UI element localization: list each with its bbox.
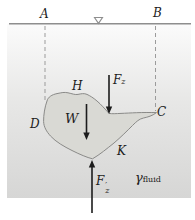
gamma-subscript: fluid (143, 175, 161, 184)
label-gamma-fluid: γfluid (135, 171, 161, 184)
free-surface-icon (95, 18, 103, 24)
label-force-fz-prime: F′z (96, 175, 110, 194)
fz-prime-letter: F (96, 174, 104, 188)
gamma-symbol: γ (135, 170, 143, 185)
fz-subscript: z (121, 77, 125, 86)
label-force-weight: W (65, 112, 78, 125)
label-d: D (30, 118, 40, 130)
label-a: A (40, 8, 49, 20)
label-b: B (153, 7, 162, 19)
label-c: C (157, 106, 166, 118)
force-fz-arrow (106, 75, 112, 114)
label-h: H (72, 80, 82, 92)
fz-prime-marks: ′z (105, 182, 109, 194)
submerged-body (44, 92, 157, 158)
force-fz-prime-arrow (89, 160, 95, 213)
diagram-canvas: A B H D C K Fz W F′z γfluid (0, 0, 195, 220)
fz-prime-subscript: z (105, 187, 109, 194)
label-force-fz: Fz (113, 74, 126, 86)
label-k: K (117, 145, 126, 157)
